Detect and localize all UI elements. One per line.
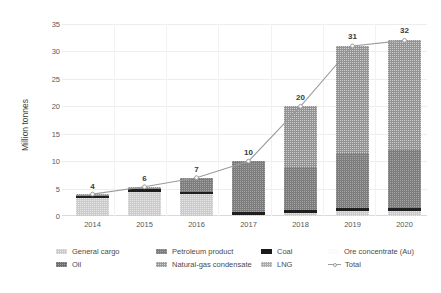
- chart-container: Million tonnes 0 5 10 15 20 25 30 35: [0, 0, 441, 293]
- data-label-2019: 31: [348, 32, 357, 41]
- y-tick-10: 10: [18, 157, 60, 166]
- plot-area: [62, 24, 427, 216]
- x-tick-2014: 2014: [84, 220, 101, 229]
- legend-item-ore-concentrate[interactable]: Ore concentrate (Au): [328, 247, 441, 257]
- legend-label-ore-concentrate: Ore concentrate (Au): [344, 247, 414, 257]
- legend-item-lng[interactable]: LNG: [261, 260, 331, 270]
- legend-label-general-cargo: General cargo: [72, 247, 120, 257]
- data-label-2017: 10: [244, 148, 253, 157]
- total-marker-2018: [299, 104, 303, 108]
- x-tick-2015: 2015: [136, 220, 153, 229]
- y-tick-30: 30: [18, 47, 60, 56]
- total-marker-2014: [91, 192, 95, 196]
- total-marker-2019: [351, 44, 355, 48]
- legend-item-petroleum-product[interactable]: Petroleum product: [156, 247, 266, 257]
- data-label-2020: 32: [400, 26, 409, 35]
- data-label-2015: 6: [142, 174, 146, 183]
- y-tick-35: 35: [18, 20, 60, 29]
- legend-swatch-lng-icon: [261, 262, 272, 267]
- data-label-2014: 4: [90, 182, 94, 191]
- total-marker-2016: [195, 176, 199, 180]
- y-tick-5: 5: [18, 184, 60, 193]
- y-tick-20: 20: [18, 102, 60, 111]
- legend-swatch-coal-icon: [261, 249, 272, 254]
- total-marker-2017: [247, 159, 251, 163]
- total-line: [93, 40, 405, 194]
- x-tick-2017: 2017: [240, 220, 257, 229]
- x-tick-2016: 2016: [188, 220, 205, 229]
- legend-item-oil[interactable]: Oil: [56, 260, 156, 270]
- legend-item-coal[interactable]: Coal: [261, 247, 331, 257]
- total-line-overlay: [62, 24, 427, 216]
- legend-swatch-ore-concentrate-icon: [328, 249, 339, 254]
- data-label-2018: 20: [296, 93, 305, 102]
- legend-label-total: Total: [345, 260, 361, 270]
- legend-item-total[interactable]: Total: [328, 260, 408, 270]
- legend-item-natural-gas-condensate[interactable]: Natural-gas condensate: [156, 260, 256, 270]
- y-tick-25: 25: [18, 74, 60, 83]
- chart-legend: General cargo Petroleum product Coal Ore…: [56, 247, 436, 289]
- legend-item-general-cargo[interactable]: General cargo: [56, 247, 156, 257]
- legend-swatch-total-line-icon: [328, 261, 341, 268]
- legend-label-coal: Coal: [277, 247, 292, 257]
- legend-label-oil: Oil: [72, 260, 81, 270]
- x-tick-2019: 2019: [344, 220, 361, 229]
- y-tick-0: 0: [18, 212, 60, 221]
- y-axis: 0 5 10 15 20 25 30 35: [10, 24, 60, 216]
- data-label-2016: 7: [194, 165, 198, 174]
- legend-swatch-natural-gas-condensate-icon: [156, 262, 167, 267]
- legend-label-natural-gas-condensate: Natural-gas condensate: [172, 260, 252, 270]
- y-tick-15: 15: [18, 129, 60, 138]
- legend-label-petroleum-product: Petroleum product: [172, 247, 233, 257]
- legend-swatch-general-cargo-icon: [56, 249, 67, 254]
- legend-label-lng: LNG: [277, 260, 292, 270]
- total-marker-2020: [403, 39, 407, 43]
- legend-swatch-petroleum-product-icon: [156, 249, 167, 254]
- x-tick-2020: 2020: [396, 220, 413, 229]
- total-marker-2015: [143, 185, 147, 189]
- x-tick-2018: 2018: [292, 220, 309, 229]
- legend-swatch-oil-icon: [56, 262, 67, 267]
